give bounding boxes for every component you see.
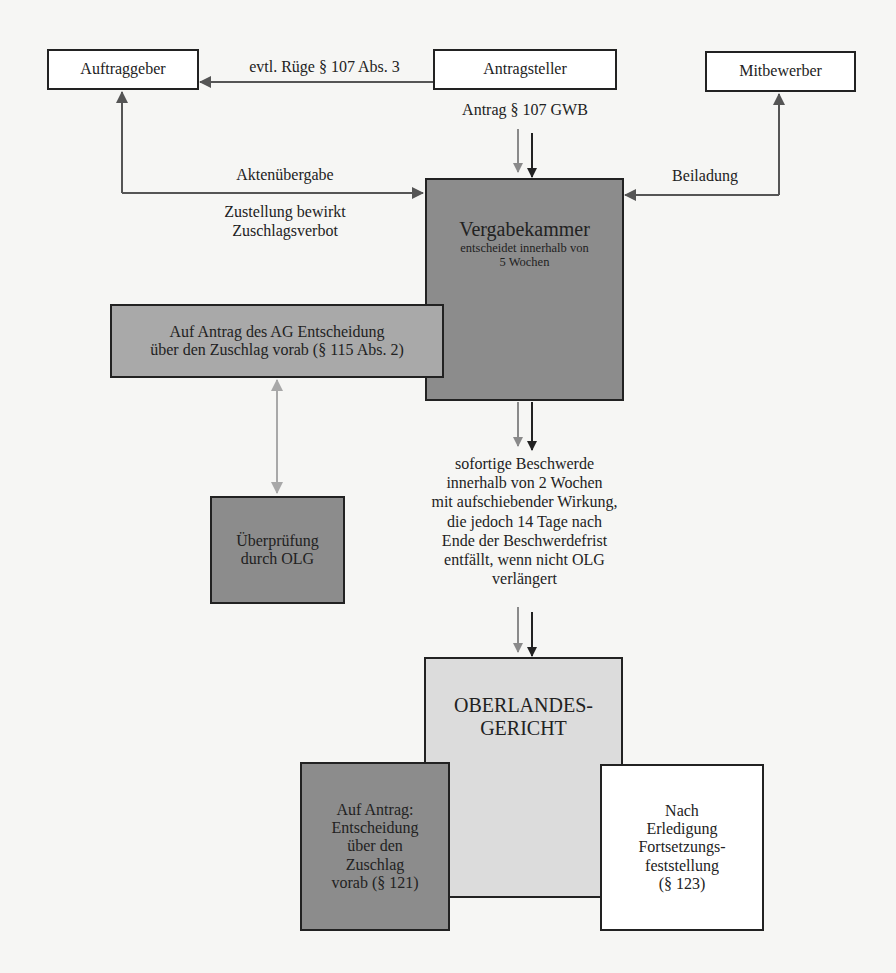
beschwerde-line: mit aufschiebender Wirkung, bbox=[402, 492, 647, 511]
edge-label-beiladung: Beiladung bbox=[655, 166, 755, 185]
node-ueberpruefung: Überprüfung durch OLG bbox=[210, 496, 345, 604]
node-auftraggeber: Auftraggeber bbox=[47, 49, 199, 90]
vorab-ag-line1: Auf Antrag des AG Entscheidung bbox=[169, 323, 384, 341]
fortsetzung-line3: Fortsetzungs- bbox=[638, 838, 725, 856]
beschwerde-line: entfällt, wenn nicht OLG bbox=[402, 550, 647, 569]
beschwerde-line: sofortige Beschwerde bbox=[402, 454, 647, 473]
ueberpruefung-line2: durch OLG bbox=[241, 550, 314, 568]
vergabekammer-line2: 5 Wochen bbox=[500, 255, 550, 269]
edge-label-ruege: evtl. Rüge § 107 Abs. 3 bbox=[222, 57, 427, 76]
zustellung-line1: Zustellung bewirkt bbox=[180, 202, 390, 221]
node-mitbewerber-label: Mitbewerber bbox=[739, 62, 822, 80]
beschwerde-line: innerhalb von 2 Wochen bbox=[402, 473, 647, 492]
beschwerde-line: die jedoch 14 Tage nach bbox=[402, 512, 647, 531]
zustellung-line2: Zuschlagsverbot bbox=[180, 221, 390, 240]
edge-label-aktenuebergabe: Aktenübergabe bbox=[200, 165, 370, 184]
fortsetzung-line4: feststellung bbox=[645, 857, 719, 875]
node-auftraggeber-label: Auftraggeber bbox=[80, 60, 165, 78]
edge-label-zustellung: Zustellung bewirkt Zuschlagsverbot bbox=[180, 202, 390, 240]
fortsetzung-line5: (§ 123) bbox=[659, 875, 706, 893]
vorab-121-line3: über den bbox=[347, 837, 403, 855]
node-oberlandesgericht: OBERLANDES- GERICHT bbox=[424, 657, 623, 898]
edge-label-antrag: Antrag § 107 GWB bbox=[430, 100, 620, 119]
node-vorab-ag: Auf Antrag des AG Entscheidung über den … bbox=[110, 304, 444, 378]
node-fortsetzungsfeststellung: Nach Erledigung Fortsetzungs- feststellu… bbox=[600, 764, 764, 931]
vorab-121-line4: Zuschlag bbox=[346, 856, 405, 874]
vorab-121-line1: Auf Antrag: bbox=[337, 801, 414, 819]
node-mitbewerber: Mitbewerber bbox=[705, 51, 856, 92]
node-vorab-121: Auf Antrag: Entscheidung über den Zuschl… bbox=[300, 762, 450, 931]
node-antragsteller-label: Antragsteller bbox=[483, 60, 567, 78]
edge-label-beschwerde: sofortige Beschwerde innerhalb von 2 Woc… bbox=[402, 454, 647, 588]
beschwerde-line: verlängert bbox=[402, 569, 647, 588]
vergabekammer-line1: entscheidet innerhalb von bbox=[460, 241, 588, 255]
beschwerde-line: Ende der Beschwerdefrist bbox=[402, 531, 647, 550]
olg-line2: GERICHT bbox=[480, 717, 567, 740]
node-antragsteller: Antragsteller bbox=[433, 49, 617, 90]
fortsetzung-line2: Erledigung bbox=[646, 820, 717, 838]
olg-line1: OBERLANDES- bbox=[454, 694, 593, 717]
vergabekammer-title: Vergabekammer bbox=[459, 218, 590, 241]
node-vergabekammer: Vergabekammer entscheidet innerhalb von … bbox=[425, 178, 624, 401]
ueberpruefung-line1: Überprüfung bbox=[236, 532, 319, 550]
vorab-ag-line2: über den Zuschlag vorab (§ 115 Abs. 2) bbox=[150, 341, 404, 359]
fortsetzung-line1: Nach bbox=[665, 802, 699, 820]
vorab-121-line2: Entscheidung bbox=[331, 819, 418, 837]
vorab-121-line5: vorab (§ 121) bbox=[331, 874, 418, 892]
